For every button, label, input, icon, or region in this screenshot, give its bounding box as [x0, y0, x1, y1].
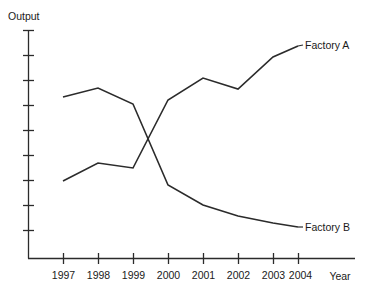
- x-tick-label-1997: 1997: [52, 269, 76, 281]
- x-tick-label-2004: 2004: [289, 269, 313, 281]
- x-axis-title: Year: [329, 270, 351, 282]
- leader-factory-a: [298, 45, 303, 46]
- x-tick-label-2000: 2000: [157, 269, 181, 281]
- x-tick-label-2001: 2001: [192, 269, 216, 281]
- y-axis-title: Output: [8, 10, 40, 22]
- chart-canvas: Output 199: [0, 0, 373, 291]
- x-tick-label-1998: 1998: [87, 269, 111, 281]
- series-label-factory-a: Factory A: [305, 39, 349, 51]
- x-tick-label-2003: 2003: [262, 269, 286, 281]
- x-axis-tick-labels: 1997 1998 1999 2000 2001 2002 2003 2004: [52, 269, 313, 281]
- series-line-factory-b: [63, 88, 298, 227]
- series-label-factory-b: Factory B: [305, 221, 350, 233]
- series-line-factory-a: [63, 46, 298, 181]
- x-tick-label-2002: 2002: [227, 269, 251, 281]
- x-tick-label-1999: 1999: [122, 269, 146, 281]
- line-chart: Output 199: [0, 0, 373, 291]
